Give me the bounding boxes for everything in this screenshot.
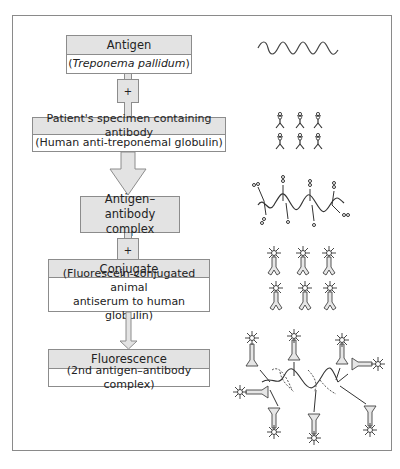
spirochete-icon — [258, 38, 338, 68]
step-specimen-title: Patient's specimen containing antibody — [33, 118, 225, 135]
step-conjugate: Conjugate (Fluorescein-conjugated animal… — [48, 259, 210, 312]
title-text: Antigen — [107, 38, 152, 52]
title-line-1: Antigen–antibody — [81, 192, 179, 222]
plus-sign: + — [124, 245, 132, 256]
step-conjugate-subtitle: (Fluorescein-conjugated animal antiserum… — [49, 278, 209, 311]
step-fluorescence: Fluorescence (2nd antigen–antibody compl… — [48, 349, 210, 387]
step-antigen-subtitle: (Treponema pallidum) — [67, 55, 191, 73]
step-antigen-title: Antigen — [67, 36, 191, 55]
down-arrow-icon — [118, 312, 140, 350]
paren-close: ) — [186, 57, 190, 71]
step-antigen-antibody-complex: Antigen–antibody complex — [80, 196, 180, 233]
antibody-grid-icon — [270, 110, 350, 155]
step-patient-specimen: Patient's specimen containing antibody (… — [32, 117, 226, 152]
plus-connector-1: + — [117, 79, 139, 103]
fluorescein-conjugate-grid-icon — [262, 245, 352, 320]
antigen-antibody-complex-icon — [250, 175, 350, 230]
fluorescent-complex-icon — [232, 330, 397, 445]
subtitle-line-1: (Fluorescein-conjugated animal — [49, 267, 209, 295]
down-arrow-icon — [110, 152, 150, 196]
subtitle-text: (2nd antigen–antibody complex) — [49, 364, 209, 392]
plus-sign: + — [124, 86, 132, 97]
subtitle-text: (Human anti-treponemal globulin) — [35, 136, 222, 150]
step-fluorescence-subtitle: (2nd antigen–antibody complex) — [49, 369, 209, 386]
step-antigen: Antigen (Treponema pallidum) — [66, 35, 192, 74]
organism-name: Treponema pallidum — [72, 57, 185, 71]
step-specimen-subtitle: (Human anti-treponemal globulin) — [33, 135, 225, 151]
